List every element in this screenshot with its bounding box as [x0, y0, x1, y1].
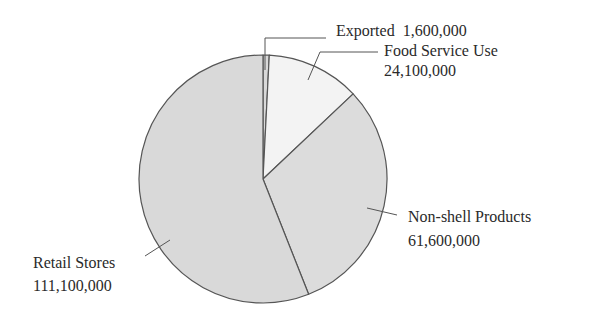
- label-food-service-value: 24,100,000: [384, 62, 456, 79]
- label-retail-name: Retail Stores: [33, 254, 115, 271]
- label-nonshell-name: Non-shell Products: [408, 208, 531, 225]
- pie-slices: [139, 55, 387, 303]
- pie-chart: Exported1,600,000 Food Service Use 24,10…: [0, 0, 598, 324]
- label-retail-value: 111,100,000: [33, 277, 112, 294]
- label-exported: Exported1,600,000: [336, 22, 467, 40]
- label-food-service-name: Food Service Use: [384, 42, 498, 59]
- label-nonshell-value: 61,600,000: [408, 232, 480, 249]
